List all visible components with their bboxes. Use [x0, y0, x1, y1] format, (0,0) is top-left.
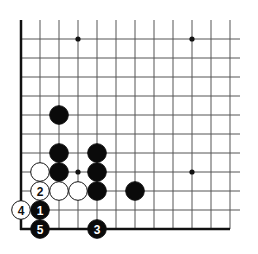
white-stone [50, 182, 69, 201]
star-point-icon [189, 36, 194, 41]
black-stone-icon [88, 163, 107, 182]
white-stone: 2 [31, 182, 50, 201]
black-stone-icon [88, 182, 107, 201]
black-stone-icon [88, 144, 107, 163]
black-stone-icon [50, 106, 69, 125]
black-stone-icon [50, 163, 69, 182]
black-stone: 3 [88, 220, 107, 239]
black-stone [126, 182, 145, 201]
black-stone: 5 [31, 220, 50, 239]
white-stone [31, 163, 50, 182]
black-stone [50, 163, 69, 182]
white-stone-icon [31, 163, 50, 182]
move-number: 1 [37, 204, 44, 218]
go-board: 21453 [0, 0, 258, 254]
black-stone [50, 144, 69, 163]
black-stone [50, 106, 69, 125]
move-number: 2 [37, 185, 44, 199]
move-number: 3 [94, 223, 101, 237]
star-point-icon [75, 36, 80, 41]
black-stone [88, 144, 107, 163]
black-stone [88, 163, 107, 182]
black-stone: 1 [31, 201, 50, 220]
black-stone-icon [126, 182, 145, 201]
move-number: 5 [37, 223, 44, 237]
white-stone-icon [50, 182, 69, 201]
white-stone-icon [69, 182, 88, 201]
star-point-icon [189, 169, 194, 174]
black-stone-icon [50, 144, 69, 163]
move-number: 4 [18, 204, 25, 218]
white-stone: 4 [12, 201, 31, 220]
white-stone [69, 182, 88, 201]
star-point-icon [75, 169, 80, 174]
black-stone [88, 182, 107, 201]
